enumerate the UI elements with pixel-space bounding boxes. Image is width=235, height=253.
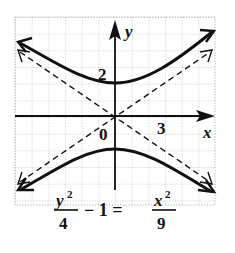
x-axis-label: x (202, 123, 212, 142)
y-axis-label: y (123, 22, 133, 41)
eq-rhs-den: 9 (157, 214, 166, 233)
hyperbola-graph: y x 2 0 3 y 2 4 − 1 = x 2 9 (0, 0, 235, 253)
eq-lhs-den: 4 (59, 214, 68, 233)
eq-lhs-exp: 2 (67, 188, 73, 200)
eq-lhs-num: y (54, 191, 64, 210)
origin-label: 0 (99, 125, 108, 144)
eq-rhs-num: x (153, 191, 163, 210)
x-tick-label: 3 (157, 119, 166, 138)
eq-rhs-exp: 2 (165, 188, 171, 200)
y-tick-label: 2 (98, 65, 107, 84)
eq-middle: − 1 = (84, 200, 123, 220)
